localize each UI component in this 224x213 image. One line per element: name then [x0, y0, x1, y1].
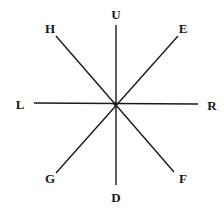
label-r: R — [207, 99, 216, 112]
label-l: L — [16, 98, 25, 111]
label-d: D — [111, 191, 120, 204]
center-point — [113, 102, 117, 106]
direction-lines — [0, 0, 224, 213]
label-h: H — [45, 22, 55, 35]
direction-diagram: U H E L R G F D — [0, 0, 224, 213]
label-g: G — [45, 172, 55, 185]
label-e: E — [179, 22, 188, 35]
label-u: U — [111, 8, 120, 21]
label-f: F — [179, 172, 187, 185]
